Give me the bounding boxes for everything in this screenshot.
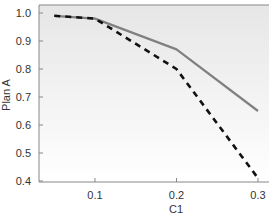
y-tick-label: 0.4	[16, 175, 31, 187]
y-axis-label: Plan A	[0, 78, 12, 110]
y-tick-label: 0.6	[16, 119, 31, 131]
x-tick-label: 0.3	[250, 189, 265, 201]
y-tick-label: 0.8	[16, 63, 31, 75]
y-tick-label: 0.5	[16, 147, 31, 159]
x-tick-label: 0.1	[87, 189, 102, 201]
y-tick-label: 1.0	[16, 7, 31, 19]
x-tick-label: 0.2	[169, 189, 184, 201]
y-tick-label: 0.9	[16, 35, 31, 47]
x-axis-label: C1	[169, 203, 183, 215]
y-tick-label: 0.7	[16, 91, 31, 103]
line-chart: 0.40.50.60.70.80.91.0 0.10.20.3 C1 Plan …	[0, 0, 269, 216]
